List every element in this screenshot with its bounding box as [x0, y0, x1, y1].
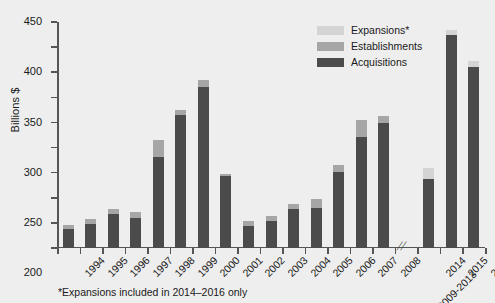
x-axis-tick — [372, 248, 374, 254]
bar — [63, 225, 74, 248]
x-axis-tick-label: 1999 — [195, 254, 220, 279]
legend-label-acquisitions: Acquisitions — [351, 56, 407, 68]
bar — [423, 168, 434, 248]
y-axis-tick-label: 200 — [24, 266, 42, 278]
bar-segment-acquisitions — [356, 137, 367, 248]
x-axis-tick — [485, 248, 487, 254]
bar — [243, 221, 254, 248]
x-axis-tick — [192, 248, 194, 254]
legend-label-expansions: Expansions* — [351, 24, 409, 36]
bar-segment-acquisitions — [153, 157, 164, 248]
y-axis-tick: 50 — [51, 222, 57, 224]
bar — [356, 120, 367, 248]
bar-segment-acquisitions — [85, 224, 96, 248]
x-axis-tick-label: 1995 — [105, 254, 130, 279]
bar-segment-acquisitions — [288, 209, 299, 248]
x-axis-tick-label: 2001 — [240, 254, 265, 279]
bar-segment-acquisitions — [108, 214, 119, 248]
x-axis-tick-label: 2004 — [307, 254, 332, 279]
bar — [333, 165, 344, 248]
bar-segment-acquisitions — [423, 179, 434, 248]
x-axis-tick — [80, 248, 82, 254]
bar-segment-acquisitions — [243, 226, 254, 248]
bar-segment-acquisitions — [311, 208, 322, 248]
bar-segment-establishments — [333, 165, 344, 172]
chart-footnote: *Expansions included in 2014–2016 only — [58, 286, 247, 298]
y-axis-tick: 250 — [51, 122, 57, 124]
x-axis-tick-label: 2006 — [352, 254, 377, 279]
bar — [468, 61, 479, 248]
bar-segment-acquisitions — [266, 221, 277, 248]
y-axis-tick: 450 — [51, 21, 57, 23]
bar — [378, 116, 389, 248]
bar-segment-acquisitions — [63, 229, 74, 248]
x-axis-tick — [237, 248, 239, 254]
y-axis-tick-label: 400 — [24, 65, 42, 77]
bar — [85, 219, 96, 248]
x-axis-tick — [260, 248, 262, 254]
bar-segment-acquisitions — [333, 172, 344, 248]
bar-segment-establishments — [356, 120, 367, 136]
legend-item: Establishments — [317, 40, 422, 52]
bar — [288, 204, 299, 248]
bar — [108, 209, 119, 248]
bar-segment-establishments — [198, 80, 209, 87]
bar — [198, 80, 209, 248]
x-axis-tick-label: 1998 — [172, 254, 197, 279]
legend-item: Acquisitions — [317, 56, 422, 68]
legend-item: Expansions* — [317, 24, 422, 36]
x-axis-tick — [170, 248, 172, 254]
bar-segment-acquisitions — [130, 218, 141, 248]
x-axis-tick-label: 2007 — [375, 254, 400, 279]
y-axis-tick: 350 — [51, 71, 57, 73]
bar-chart: Billions $ 050100150200250300350400450 1… — [0, 0, 495, 303]
bar-segment-acquisitions — [378, 123, 389, 248]
bar-segment-acquisitions — [198, 87, 209, 248]
bar-segment-acquisitions — [175, 115, 186, 248]
x-axis-tick-label: 2002 — [262, 254, 287, 279]
x-axis-tick-label: 2000 — [217, 254, 242, 279]
legend-swatch-expansions — [317, 26, 344, 35]
y-axis-tick: 200 — [51, 147, 57, 149]
y-axis-tick: 150 — [51, 172, 57, 174]
x-axis-tick — [350, 248, 352, 254]
x-axis-tick-label: 1994 — [82, 254, 107, 279]
y-axis-tick: 300 — [51, 97, 57, 99]
x-axis-tick — [102, 248, 104, 254]
x-axis-tick — [305, 248, 307, 254]
x-axis-tick-label: 2008 — [397, 254, 422, 279]
x-axis-tick — [417, 248, 419, 254]
y-axis-title: Billions $ — [9, 65, 21, 155]
bar — [175, 110, 186, 248]
legend-swatch-acquisitions — [317, 58, 344, 67]
bar — [266, 216, 277, 248]
y-axis-tick-label: 350 — [24, 116, 42, 128]
bar-segment-establishments — [311, 199, 322, 208]
x-axis-tick-label: 2016 — [488, 254, 495, 279]
y-axis-tick-label: 250 — [24, 216, 42, 228]
x-axis-tick — [462, 248, 464, 254]
x-axis-tick — [125, 248, 127, 254]
y-axis-line — [57, 22, 59, 248]
bar — [311, 199, 322, 248]
x-axis-tick — [282, 248, 284, 254]
x-axis-tick — [440, 248, 442, 254]
x-axis-tick — [147, 248, 149, 254]
legend-swatch-establishments — [317, 42, 344, 51]
bar — [446, 30, 457, 248]
y-axis-tick: 400 — [51, 46, 57, 48]
y-axis-tick-label: 300 — [24, 166, 42, 178]
x-axis-tick — [327, 248, 329, 254]
legend: Expansions* Establishments Acquisitions — [317, 24, 422, 68]
bar-segment-acquisitions — [220, 176, 231, 248]
y-axis-tick: 100 — [51, 197, 57, 199]
bar-segment-acquisitions — [468, 67, 479, 248]
legend-label-establishments: Establishments — [351, 40, 422, 52]
x-axis-tick-label: 1996 — [127, 254, 152, 279]
bar — [220, 174, 231, 248]
x-axis-tick-label: 2005 — [330, 254, 355, 279]
bar — [130, 212, 141, 248]
y-axis-tick-label: 450 — [24, 15, 42, 27]
x-axis-tick — [215, 248, 217, 254]
bar-segment-establishments — [153, 140, 164, 157]
